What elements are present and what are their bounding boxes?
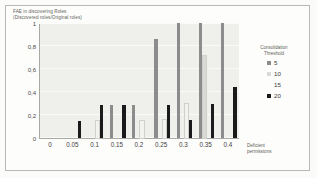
legend-swatch (267, 83, 271, 87)
x-tick-label: 0.2 (135, 141, 144, 148)
x-tick-label: 0.15 (111, 141, 123, 148)
chart-screenshot: FAE in discovering Roles (Discovered rol… (0, 0, 317, 178)
bar (100, 105, 103, 138)
bar (132, 105, 135, 138)
bar (140, 121, 143, 138)
legend-label: 20 (274, 92, 281, 99)
y-tick-label: 0,6 (14, 67, 36, 73)
x-tick-label: 0.05 (66, 141, 78, 148)
bar (110, 105, 113, 138)
y-tick-label: 0,2 (14, 113, 36, 119)
bar (221, 23, 224, 138)
legend-item: 5 (248, 57, 306, 68)
x-axis-label-line-2: permissions (247, 149, 295, 155)
x-tick-label: 0.35 (200, 141, 212, 148)
bar (189, 120, 192, 138)
gridline (40, 22, 239, 23)
legend-item: 20 (248, 90, 306, 101)
x-tick-label: 0.3 (179, 141, 188, 148)
bar (78, 121, 81, 138)
bar (185, 104, 188, 139)
bar (211, 104, 214, 139)
legend-swatch (267, 72, 271, 76)
x-tick-label: 0.25 (155, 141, 167, 148)
legend: Consolidation Threshold 5101520 (248, 45, 306, 101)
bar (203, 56, 206, 138)
y-axis: 10,80,60,40,20 (13, 24, 36, 139)
legend-label: 15 (274, 81, 281, 88)
legend-label: 10 (274, 70, 281, 77)
bars-layer (40, 24, 239, 138)
x-tick-label: 0.4 (223, 141, 232, 148)
legend-label: 5 (274, 59, 277, 66)
legend-item: 15 (248, 79, 306, 90)
y-tick-label: 0,4 (14, 90, 36, 96)
legend-title: Consolidation Threshold (248, 45, 300, 57)
bar (154, 39, 157, 138)
legend-item: 10 (248, 68, 306, 79)
bar (96, 121, 99, 138)
legend-swatch (267, 61, 271, 65)
bar (177, 23, 180, 138)
plot-area (39, 24, 239, 139)
y-tick-label: 0,8 (14, 44, 36, 50)
bar (199, 23, 202, 138)
chart-title: FAE in discovering Roles (Discovered rol… (13, 9, 133, 22)
legend-items: 5101520 (248, 57, 306, 101)
x-tick-label: 0 (48, 141, 52, 148)
x-axis-label: Deficient permissions (247, 143, 295, 156)
x-tick-label: 0.1 (90, 141, 99, 148)
legend-swatch (267, 94, 271, 98)
bar (163, 120, 166, 138)
x-axis: 00.050.10.150.20.250.30.350.4 (39, 141, 239, 153)
y-tick-label: 1 (14, 21, 36, 27)
y-tick-label: 0 (14, 136, 36, 142)
bar (233, 87, 236, 138)
bar (167, 105, 170, 138)
bar (122, 105, 125, 138)
